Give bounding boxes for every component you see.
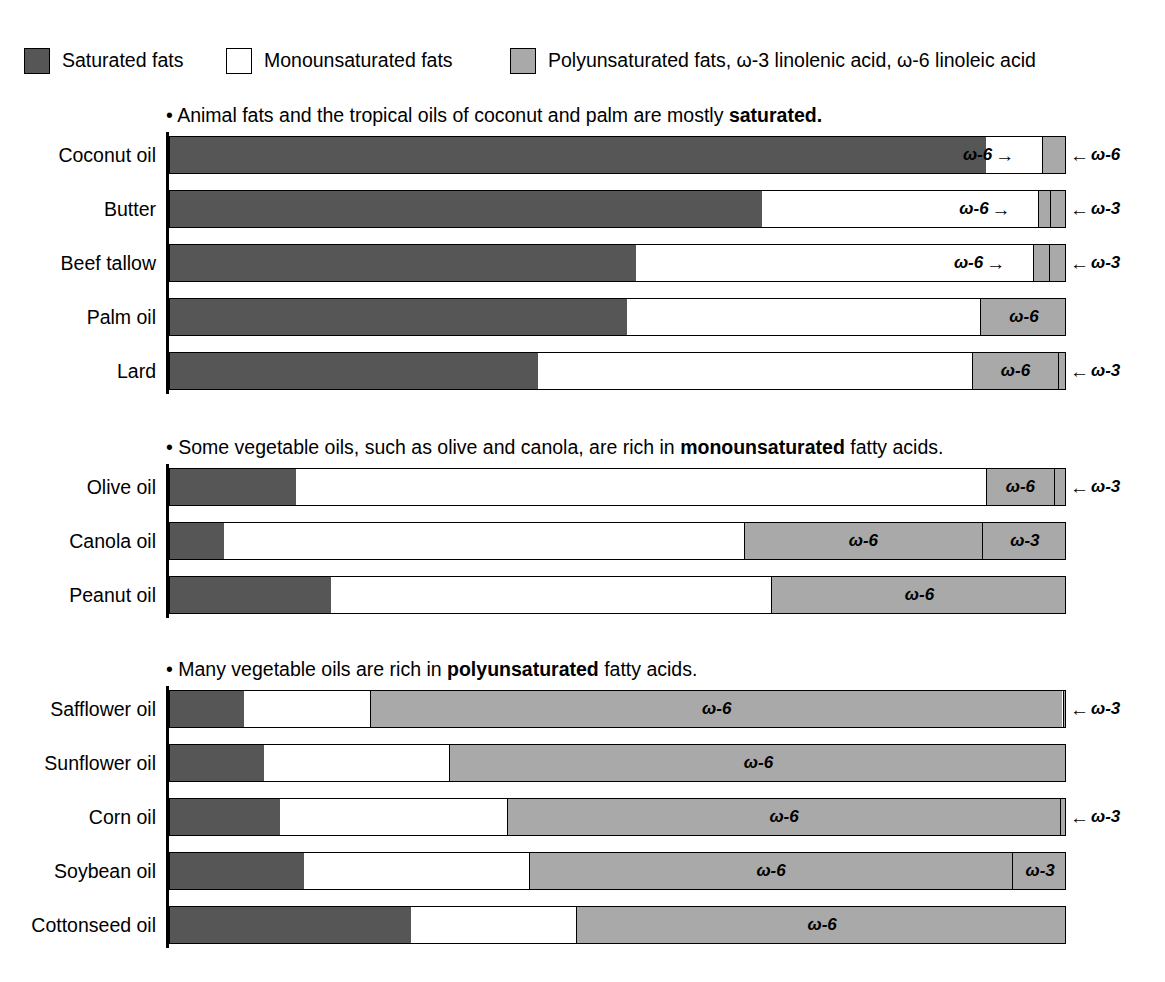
stacked-bar[interactable]: ω-6ω-3	[169, 522, 1066, 560]
stacked-bar[interactable]	[169, 190, 1066, 228]
section-heading-emphasis: monounsaturated	[680, 436, 845, 458]
segment-omega-6: ω-6	[980, 299, 1066, 335]
omega-3-label: ω-3	[1091, 477, 1120, 497]
omega-3-callout: ←ω-3	[1070, 690, 1120, 728]
row-label-safflower-oil: Safflower oil	[0, 690, 156, 728]
section-heading-suffix: fatty acids.	[845, 436, 944, 458]
segment-omega-6: ω-6	[529, 853, 1012, 889]
row-label-coconut-oil: Coconut oil	[0, 136, 156, 174]
legend-label-saturated: Saturated fats	[62, 51, 183, 71]
chart-row: Peanut oilω-6	[0, 576, 1165, 614]
segment-saturated	[170, 523, 224, 559]
chart-row: Beef tallowω-6→←ω-3	[0, 244, 1165, 282]
plot-area: Safflower oilω-6←ω-3Sunflower oilω-6Corn…	[0, 686, 1165, 948]
row-label-butter: Butter	[0, 190, 156, 228]
arrow-left-icon: ←	[1070, 808, 1089, 827]
segment-omega-3: ω-3	[982, 523, 1066, 559]
segment-omega-3: ω-3	[1012, 853, 1066, 889]
stacked-bar[interactable]	[169, 136, 1066, 174]
section-heading-prefix: • Animal fats and the tropical oils of c…	[166, 104, 729, 126]
segment-monounsaturated	[331, 577, 771, 613]
chart-row: Palm oilω-6	[0, 298, 1165, 336]
segment-saturated	[170, 137, 986, 173]
arrow-left-icon: ←	[1070, 700, 1089, 719]
segment-monounsaturated	[538, 353, 972, 389]
row-label-cottonseed-oil: Cottonseed oil	[0, 906, 156, 944]
chart-row: Butterω-6→←ω-3	[0, 190, 1165, 228]
legend-swatch-saturated	[24, 48, 50, 74]
legend-swatch-monounsaturated	[226, 48, 252, 74]
arrow-right-icon: →	[986, 254, 1005, 273]
omega-6-label: ω-6	[1006, 477, 1035, 497]
omega-3-label: ω-3	[1025, 861, 1054, 881]
row-label-olive-oil: Olive oil	[0, 468, 156, 506]
omega-6-label: ω-6	[808, 915, 837, 935]
segment-omega-6: ω-6	[771, 577, 1066, 613]
stacked-bar[interactable]: ω-6	[169, 352, 1066, 390]
omega-3-label: ω-3	[1091, 199, 1120, 219]
row-label-soybean-oil: Soybean oil	[0, 852, 156, 890]
segment-omega-6	[1038, 191, 1050, 227]
row-label-canola-oil: Canola oil	[0, 522, 156, 560]
segment-omega-3	[1054, 469, 1066, 505]
section-heading-emphasis: polyunsaturated	[447, 658, 599, 680]
segment-omega-3	[1060, 799, 1066, 835]
plot-area: Coconut oilω-6→←ω-6Butterω-6→←ω-3Beef ta…	[0, 132, 1165, 394]
chart-row: Corn oilω-6←ω-3	[0, 798, 1165, 836]
segment-saturated	[170, 799, 280, 835]
row-label-corn-oil: Corn oil	[0, 798, 156, 836]
omega-6-callout: ←ω-6	[1070, 136, 1120, 174]
segment-omega-6: ω-6	[972, 353, 1058, 389]
omega-3-callout: ←ω-3	[1070, 468, 1120, 506]
section-monounsaturated-section: • Some vegetable oils, such as olive and…	[0, 438, 1165, 618]
segment-omega-6: ω-6	[986, 469, 1053, 505]
segment-saturated	[170, 691, 244, 727]
stacked-bar[interactable]: ω-6	[169, 798, 1066, 836]
row-label-beef-tallow: Beef tallow	[0, 244, 156, 282]
omega-6-label: ω-6	[1001, 361, 1030, 381]
legend-swatch-polyunsaturated	[510, 48, 536, 74]
segment-saturated	[170, 853, 304, 889]
stacked-bar[interactable]	[169, 244, 1066, 282]
omega-3-label: ω-3	[1091, 807, 1120, 827]
segment-omega-6: ω-6	[744, 523, 982, 559]
omega-3-callout: ←ω-3	[1070, 190, 1120, 228]
omega-6-label: ω-6	[959, 199, 988, 219]
omega-3-label: ω-3	[1091, 253, 1120, 273]
stacked-bar[interactable]: ω-6	[169, 298, 1066, 336]
chart-row: Safflower oilω-6←ω-3	[0, 690, 1165, 728]
section-heading-prefix: • Some vegetable oils, such as olive and…	[166, 436, 680, 458]
section-heading: • Some vegetable oils, such as olive and…	[166, 438, 943, 458]
segment-omega-3	[1049, 245, 1066, 281]
omega-6-label: ω-6	[1009, 307, 1038, 327]
omega-6-callout-inside: ω-6→	[959, 190, 1010, 228]
segment-omega-6: ω-6	[576, 907, 1066, 943]
segment-omega-6: ω-6	[370, 691, 1062, 727]
segment-omega-6	[1042, 137, 1065, 173]
segment-saturated	[170, 469, 296, 505]
segment-monounsaturated	[411, 907, 576, 943]
row-label-sunflower-oil: Sunflower oil	[0, 744, 156, 782]
segment-monounsaturated	[244, 691, 370, 727]
chart-row: Cottonseed oilω-6	[0, 906, 1165, 944]
section-heading: • Many vegetable oils are rich in polyun…	[166, 660, 697, 680]
segment-saturated	[170, 299, 627, 335]
row-label-lard: Lard	[0, 352, 156, 390]
stacked-bar[interactable]: ω-6	[169, 690, 1066, 728]
segment-monounsaturated	[304, 853, 529, 889]
stacked-bar[interactable]: ω-6	[169, 906, 1066, 944]
stacked-bar[interactable]: ω-6	[169, 468, 1066, 506]
legend-label-polyunsaturated: Polyunsaturated fats, ω-3 linolenic acid…	[548, 51, 1036, 71]
segment-saturated	[170, 745, 264, 781]
row-label-peanut-oil: Peanut oil	[0, 576, 156, 614]
chart-row: Soybean oilω-6ω-3	[0, 852, 1165, 890]
omega-3-label: ω-3	[1010, 531, 1039, 551]
stacked-bar[interactable]: ω-6	[169, 744, 1066, 782]
chart-row: Sunflower oilω-6	[0, 744, 1165, 782]
segment-saturated	[170, 353, 538, 389]
stacked-bar[interactable]: ω-6	[169, 576, 1066, 614]
segment-monounsaturated	[280, 799, 507, 835]
chart-row: Coconut oilω-6→←ω-6	[0, 136, 1165, 174]
section-saturated-section: • Animal fats and the tropical oils of c…	[0, 106, 1165, 394]
stacked-bar[interactable]: ω-6ω-3	[169, 852, 1066, 890]
